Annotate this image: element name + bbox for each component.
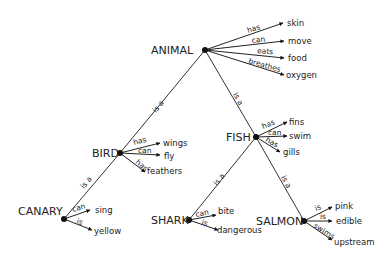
- isa-label: is a: [231, 91, 245, 107]
- property-value: upstream: [334, 237, 375, 247]
- node-dot-fish: [253, 134, 259, 140]
- relation-label: can: [138, 146, 152, 155]
- property-value: food: [288, 53, 307, 63]
- property-value: bite: [218, 206, 234, 216]
- isa-label: is a: [211, 172, 226, 188]
- concept-label-canary: CANARY: [18, 205, 63, 218]
- relation-label: is: [75, 217, 84, 228]
- property-value: swim: [289, 131, 311, 141]
- isa-label: is a: [78, 175, 93, 191]
- property-value: feathers: [147, 166, 183, 176]
- property-value: skin: [287, 18, 304, 28]
- node-dot-animal: [202, 47, 208, 53]
- isa-label: is a: [279, 174, 293, 190]
- property-value: yellow: [94, 226, 121, 236]
- relation-label: can: [195, 207, 210, 219]
- concept-label-animal: ANIMAL: [151, 44, 194, 57]
- property-value: gills: [283, 147, 300, 157]
- relation-label: has: [264, 135, 280, 149]
- relation-label: can: [251, 35, 266, 45]
- concept-label-fish: FISH: [226, 131, 251, 144]
- property-value: move: [288, 36, 312, 46]
- property-value: oxygen: [286, 70, 317, 80]
- concept-label-salmon: SALMON: [256, 215, 303, 228]
- concept-nodes: ANIMALBIRDFISHCANARYSHARKSALMON: [18, 44, 307, 228]
- concept-label-bird: BIRD: [92, 147, 119, 160]
- relation-label: breathes: [247, 56, 281, 74]
- property-value: edible: [336, 216, 362, 226]
- property-value: wings: [163, 138, 188, 148]
- relation-label: eats: [257, 46, 274, 56]
- property-edges: hasskincanmoveeatsfoodbreathesoxygenhasw…: [64, 18, 375, 247]
- property-value: fins: [289, 117, 305, 127]
- property-value: fly: [164, 151, 174, 161]
- relation-label: has: [246, 22, 261, 35]
- property-value: pink: [335, 201, 353, 211]
- property-value: sing: [95, 205, 113, 215]
- relation-label: is: [320, 212, 326, 221]
- concept-label-shark: SHARK: [151, 214, 189, 227]
- relation-label: swims: [312, 221, 337, 241]
- semantic-network-diagram: is ais ais ais ais a hasskincanmoveeatsf…: [0, 0, 389, 260]
